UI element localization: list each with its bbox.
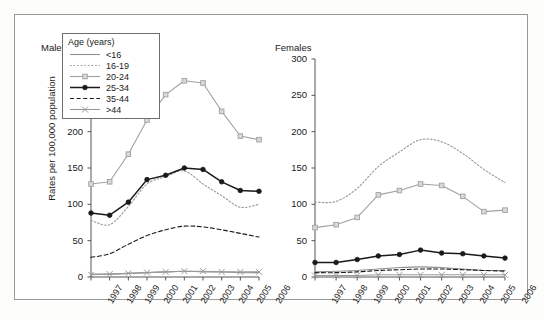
data-point-marker (439, 251, 444, 256)
data-point-marker (355, 257, 360, 262)
series-line (315, 184, 505, 228)
data-point-marker (355, 215, 360, 220)
y-axis-tick-label: 300 (281, 53, 307, 64)
series-line (315, 275, 505, 276)
figure-canvas: Males Rates per 100,000 population 05010… (0, 0, 544, 320)
data-point-marker (219, 180, 224, 185)
data-point-marker (376, 254, 381, 259)
series-line (91, 271, 259, 275)
data-point-marker (219, 109, 224, 114)
legend-item-label: <16 (106, 50, 121, 60)
data-point-marker (376, 193, 381, 198)
data-point-marker (126, 200, 131, 205)
legend-title: Age (years) (68, 37, 155, 47)
data-point-marker (83, 74, 88, 79)
data-point-marker (460, 251, 465, 256)
panel-females: Females 05010015020025030019971998199920… (253, 15, 529, 301)
series-35-44 (91, 226, 259, 257)
data-point-marker (89, 182, 94, 187)
y-axis-tick-label: 50 (57, 235, 83, 246)
data-point-marker (397, 188, 402, 193)
legend-item-label: 16-19 (106, 61, 129, 71)
y-axis-tick-label: 150 (57, 162, 83, 173)
data-point-marker (460, 194, 465, 199)
data-point-marker (126, 152, 131, 157)
data-point-marker (145, 177, 150, 182)
data-point-marker (397, 252, 402, 257)
series-25-34 (313, 248, 508, 265)
series-16-19 (315, 139, 505, 203)
figure-frame: Males Rates per 100,000 population 05010… (14, 14, 528, 300)
data-point-marker (201, 167, 206, 172)
y-axis-tick-label: 100 (281, 198, 307, 209)
axis-lines (315, 59, 505, 277)
data-point-marker (238, 188, 243, 193)
legend-swatch (68, 60, 102, 71)
data-point-marker (163, 92, 168, 97)
data-point-marker (83, 85, 88, 90)
data-point-marker (163, 173, 168, 178)
legend-item-label: 25-34 (106, 83, 129, 93)
y-axis-tick-label: 200 (57, 126, 83, 137)
legend-item-35-44: 35-44 (68, 93, 155, 104)
series-16-19 (91, 171, 259, 225)
data-point-marker (182, 79, 187, 84)
series-line (91, 168, 259, 215)
data-point-marker (313, 260, 318, 265)
data-point-marker (482, 254, 487, 259)
data-point-marker (334, 222, 339, 227)
series-line (315, 250, 505, 262)
y-axis-tick-label: 250 (281, 89, 307, 100)
data-point-marker (334, 260, 339, 265)
data-point-marker (182, 166, 187, 171)
legend-swatch (68, 71, 102, 82)
series-line (91, 226, 259, 257)
data-point-marker (201, 81, 206, 86)
legend-item-label: 20-24 (106, 72, 129, 82)
data-point-marker (503, 256, 508, 261)
data-point-marker (238, 134, 243, 139)
legend-swatch (68, 93, 102, 104)
legend-item-20-24: 20-24 (68, 71, 155, 82)
legend-item-16: <16 (68, 49, 155, 60)
data-point-marker (107, 213, 112, 218)
legend-swatch (68, 49, 102, 60)
data-point-marker (482, 209, 487, 214)
data-point-marker (439, 183, 444, 188)
series-25-34 (89, 166, 262, 218)
data-point-marker (313, 225, 318, 230)
data-point-marker (503, 208, 508, 213)
legend-swatch (68, 82, 102, 93)
data-point-marker (418, 248, 423, 253)
legend-item-label: >44 (106, 105, 121, 115)
y-axis-tick-label: 50 (281, 235, 307, 246)
legend-item-25-34: 25-34 (68, 82, 155, 93)
data-point-marker (418, 182, 423, 187)
series-line (91, 171, 259, 225)
y-axis-tick-label: 200 (281, 126, 307, 137)
legend-item-label: 35-44 (106, 94, 129, 104)
legend: Age (years) <1616-1920-2425-3435-44>44 (62, 33, 160, 119)
legend-rows: <1616-1920-2425-3435-44>44 (68, 49, 155, 115)
legend-item-44: >44 (68, 104, 155, 115)
y-axis-tick-label: 0 (57, 271, 83, 282)
y-axis-tick-label: 100 (57, 198, 83, 209)
y-axis-tick-label: 150 (281, 162, 307, 173)
legend-swatch (68, 104, 102, 115)
y-axis-tick-label: 0 (281, 271, 307, 282)
series-line (315, 139, 505, 203)
data-point-marker (107, 180, 112, 185)
data-point-marker (89, 211, 94, 216)
legend-item-16-19: 16-19 (68, 60, 155, 71)
series-20-24 (313, 182, 508, 230)
